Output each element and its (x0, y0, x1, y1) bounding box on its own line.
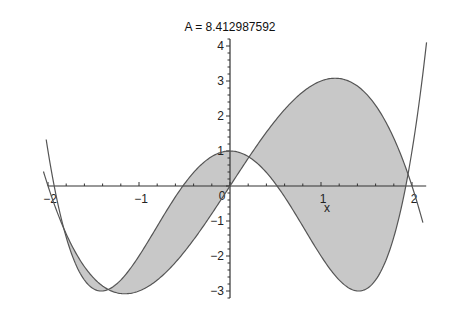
y-tick-label: −2 (210, 249, 224, 263)
y-tick-label: 3 (217, 74, 224, 88)
x-tick-label: −1 (134, 192, 148, 206)
plot-area: A = 8.412987592 −2−1012−3−2−11234 x (0, 0, 454, 323)
y-tick-label: −3 (210, 284, 224, 298)
y-tick-label: 2 (217, 109, 224, 123)
y-tick-label: −1 (210, 214, 224, 228)
chart-title: A = 8.412987592 (184, 20, 275, 34)
y-tick-label: 1 (217, 144, 224, 158)
y-tick-label: 4 (217, 39, 224, 53)
x-axis-label: x (324, 201, 330, 215)
